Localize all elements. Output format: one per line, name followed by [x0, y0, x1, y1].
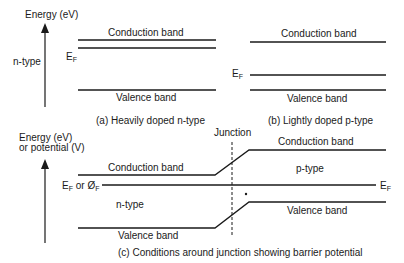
fermi-level-label: EF [66, 51, 77, 63]
arrowhead-icon [41, 23, 49, 33]
p-type-label: p-type [296, 163, 324, 174]
valence-band-label: Valence band [116, 92, 176, 103]
valence-band-label-left: Valence band [118, 230, 178, 241]
fermi-level-label-right: EF [380, 180, 391, 192]
energy-axis-label: Energy (eV) [25, 9, 78, 20]
caption-c: (c) Conditions around junction showing b… [118, 247, 363, 258]
valence-band-label-right: Valence band [287, 205, 347, 216]
panel-b: Conduction band EF Valence band (b) Ligh… [232, 28, 386, 126]
valence-band-label: Valence band [287, 93, 347, 104]
arrowhead-icon [41, 159, 49, 169]
panel-c: Energy (eV) or potential (V) Junction Co… [19, 127, 391, 258]
dot-marker [245, 193, 247, 195]
conduction-band-label: Conduction band [108, 27, 184, 38]
caption-b: (b) Lightly doped p-type [268, 115, 374, 126]
fermi-level-label: EF [232, 68, 243, 80]
conduction-band-label: Conduction band [281, 28, 357, 39]
junction-label: Junction [214, 127, 251, 138]
conduction-band-label-left: Conduction band [108, 162, 184, 173]
energy-axis-label-line2: or potential (V) [19, 142, 85, 153]
panel-a: Energy (eV) n-type Conduction band EF Va… [13, 9, 216, 126]
fermi-level-label-left: EF or ØF [62, 180, 99, 192]
caption-a: (a) Heavily doped n-type [96, 115, 205, 126]
band-diagram: Energy (eV) n-type Conduction band EF Va… [0, 0, 404, 263]
n-type-label: n-type [13, 56, 41, 67]
n-type-label: n-type [116, 199, 144, 210]
conduction-band-label-right: Conduction band [278, 136, 354, 147]
